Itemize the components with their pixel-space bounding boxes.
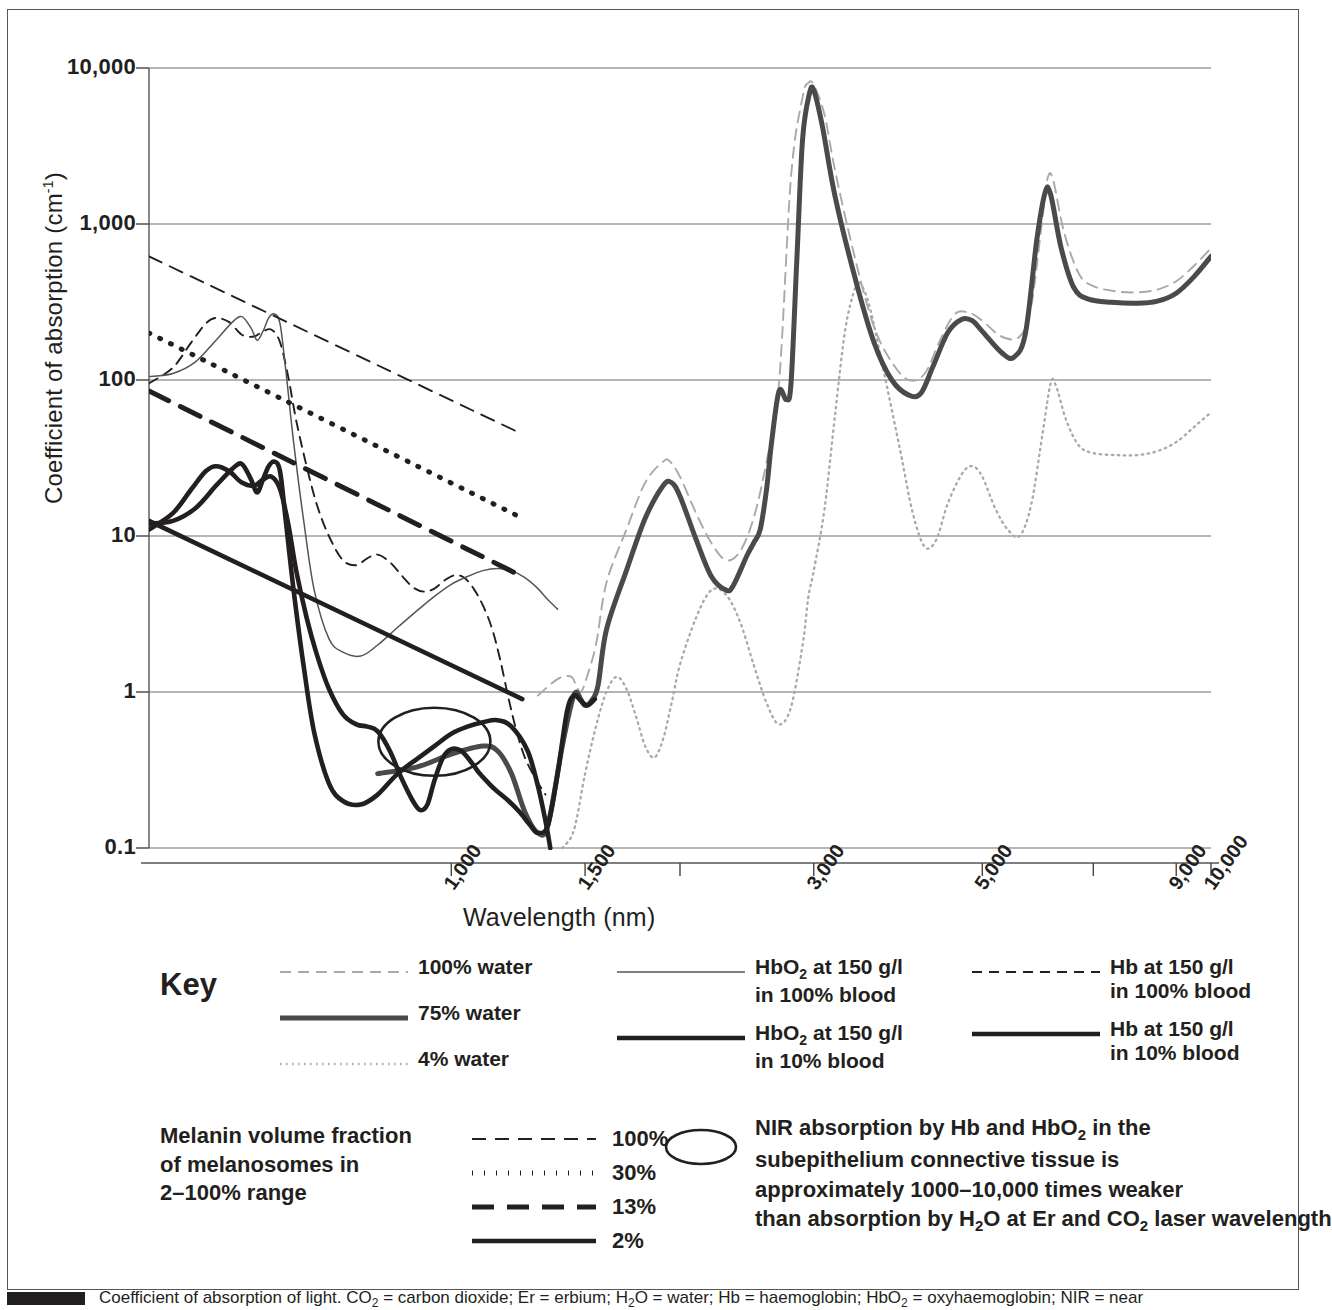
- legend-column-hbo2: HbO2 at 150 g/lin 100% bloodHbO2 at 150 …: [615, 955, 903, 1087]
- melanin-label: 13%: [598, 1194, 656, 1220]
- figure-frame: Coefficient of absorption (cm-1) Wavelen…: [7, 9, 1299, 1290]
- key-title: Key: [160, 967, 217, 1003]
- series-hbo2-at-150-g-l-in-100-blood: [149, 314, 558, 657]
- melanin-label: 30%: [598, 1160, 656, 1186]
- legend-item: 75% water: [278, 1001, 532, 1035]
- legend-swatch: [970, 955, 1102, 989]
- footnote-bar: [7, 1292, 85, 1305]
- nir-region-ellipse: [378, 708, 490, 776]
- melanin-swatch: [470, 1128, 598, 1150]
- melanin-legend-item: 100%: [470, 1122, 668, 1156]
- nir-annotation: NIR absorption by Hb and HbO2 in thesube…: [663, 1113, 1332, 1236]
- legend-label: 4% water: [410, 1047, 509, 1071]
- nir-annotation-text: NIR absorption by Hb and HbO2 in thesube…: [741, 1113, 1332, 1236]
- legend-label: Hb at 150 g/lin 100% blood: [1102, 955, 1251, 1003]
- legend-label: Hb at 150 g/lin 10% blood: [1102, 1017, 1240, 1065]
- melanin-description: Melanin volume fractionof melanosomes in…: [160, 1122, 412, 1208]
- legend-swatch: [970, 1017, 1102, 1051]
- y-tick-01: 0.1: [48, 834, 136, 860]
- melanin-swatch: [470, 1162, 598, 1184]
- absorption-plot: [8, 10, 1300, 940]
- legend-item: 4% water: [278, 1047, 532, 1081]
- melanin-legend-item: 13%: [470, 1190, 668, 1224]
- y-tick-1000: 1,000: [48, 210, 136, 236]
- y-tick-10000: 10,000: [48, 54, 136, 80]
- melanin-legend-item: 2%: [470, 1224, 668, 1258]
- melanin-swatch: [470, 1230, 598, 1252]
- y-tick-10: 10: [48, 522, 136, 548]
- legend-item: Hb at 150 g/lin 10% blood: [970, 1017, 1251, 1065]
- y-tick-100: 100: [48, 366, 136, 392]
- legend-swatch: [278, 1047, 410, 1081]
- footnote-text: Coefficient of absorption of light. CO2 …: [85, 1288, 1143, 1310]
- legend-column-hb: Hb at 150 g/lin 100% bloodHb at 150 g/li…: [970, 955, 1251, 1079]
- legend-swatch: [615, 955, 747, 989]
- legend-swatch: [615, 1021, 747, 1055]
- ellipse-icon: [663, 1113, 741, 1171]
- legend-label: HbO2 at 150 g/lin 100% blood: [747, 955, 903, 1007]
- legend-item: Hb at 150 g/lin 100% blood: [970, 955, 1251, 1003]
- legend-swatch: [278, 1001, 410, 1035]
- series-melanin-30: [149, 333, 522, 518]
- x-axis-title: Wavelength (nm): [463, 903, 655, 932]
- melanin-label: 2%: [598, 1228, 644, 1254]
- footnote: Coefficient of absorption of light. CO2 …: [7, 1288, 1307, 1310]
- legend-label: 75% water: [410, 1001, 521, 1025]
- legend-swatch: [278, 955, 410, 989]
- legend-column-water: 100% water75% water4% water: [278, 955, 532, 1093]
- y-tick-1: 1: [48, 678, 136, 704]
- legend-item: HbO2 at 150 g/lin 10% blood: [615, 1021, 903, 1073]
- series-100-water: [538, 81, 1211, 695]
- series-melanin-100: [149, 256, 522, 434]
- legend-item: 100% water: [278, 955, 532, 989]
- melanin-label: 100%: [598, 1126, 668, 1152]
- melanin-rows: 100%30%13%2%: [470, 1122, 668, 1258]
- legend-item: HbO2 at 150 g/lin 100% blood: [615, 955, 903, 1007]
- legend-label: HbO2 at 150 g/lin 10% blood: [747, 1021, 903, 1073]
- legend-label: 100% water: [410, 955, 532, 979]
- melanin-swatch: [470, 1196, 598, 1218]
- melanin-legend-item: 30%: [470, 1156, 668, 1190]
